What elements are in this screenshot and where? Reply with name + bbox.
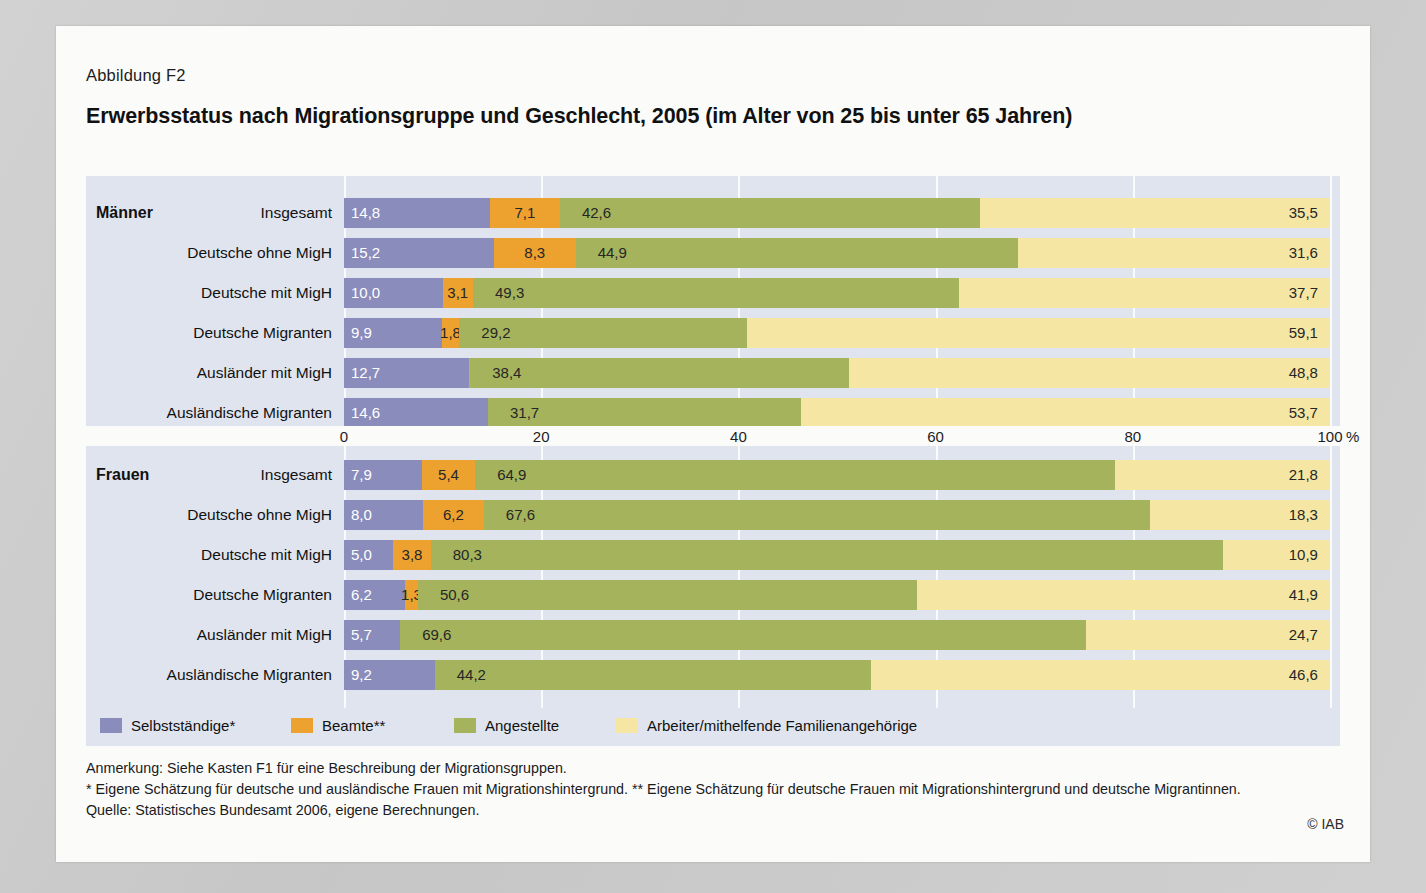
x-axis: 020406080100% bbox=[86, 426, 1340, 446]
stacked-bar: 5,769,624,7 bbox=[344, 620, 1330, 650]
row-category-label: Deutsche mit MigH bbox=[32, 278, 332, 308]
bar-value-label: 46,6 bbox=[1289, 660, 1318, 690]
bar-segment-0: 14,8 bbox=[344, 198, 490, 228]
bar-segment-0: 10,0 bbox=[344, 278, 443, 308]
bar-value-label: 15,2 bbox=[351, 238, 380, 268]
chart-row: Deutsche Migranten9,91,829,259,1 bbox=[86, 318, 1340, 348]
bar-segment-3: 37,7 bbox=[959, 278, 1330, 308]
bar-value-label: 9,9 bbox=[351, 318, 372, 348]
x-axis-tick-80: 80 bbox=[1124, 428, 1141, 445]
bar-value-label: 69,6 bbox=[422, 620, 451, 650]
legend-label: Selbstständige* bbox=[131, 717, 235, 734]
bar-value-label: 44,9 bbox=[598, 238, 627, 268]
bar-value-label: 80,3 bbox=[453, 540, 482, 570]
bar-value-label: 12,7 bbox=[351, 358, 380, 388]
bar-segment-2: 42,6 bbox=[560, 198, 980, 228]
bar-value-label: 29,2 bbox=[481, 318, 510, 348]
legend-item-2[interactable]: Angestellte bbox=[454, 717, 559, 734]
bar-value-label: 37,7 bbox=[1289, 278, 1318, 308]
stacked-bar: 10,03,149,337,7 bbox=[344, 278, 1330, 308]
legend-swatch-icon bbox=[454, 718, 476, 733]
bar-segment-1: 3,1 bbox=[443, 278, 474, 308]
copyright: © IAB bbox=[1307, 816, 1344, 832]
row-category-label: Ausländer mit MigH bbox=[32, 620, 332, 650]
bar-segment-0: 8,0 bbox=[344, 500, 423, 530]
bar-value-label: 64,9 bbox=[497, 460, 526, 490]
chart-row: Ausländer mit MigH5,769,624,7 bbox=[86, 620, 1340, 650]
stacked-bar: 5,03,880,310,9 bbox=[344, 540, 1330, 570]
legend-item-3[interactable]: Arbeiter/mithelfende Familienangehörige bbox=[616, 717, 917, 734]
chart-row: Ausländische Migranten14,631,753,7 bbox=[86, 398, 1340, 428]
stacked-bar: 7,95,464,921,8 bbox=[344, 460, 1330, 490]
bar-value-label: 7,9 bbox=[351, 460, 372, 490]
bar-segment-3: 18,3 bbox=[1150, 500, 1330, 530]
bar-segment-1: 5,4 bbox=[422, 460, 475, 490]
bar-segment-2: 29,2 bbox=[459, 318, 747, 348]
bar-value-label: 44,2 bbox=[457, 660, 486, 690]
bar-value-label: 7,1 bbox=[514, 198, 535, 228]
page-background: Abbildung F2 Erwerbsstatus nach Migratio… bbox=[0, 0, 1426, 893]
bar-value-label: 1,8 bbox=[440, 318, 461, 348]
legend-label: Beamte** bbox=[322, 717, 385, 734]
row-category-label: Deutsche Migranten bbox=[32, 318, 332, 348]
x-axis-tick-60: 60 bbox=[927, 428, 944, 445]
chart-row: Deutsche Migranten6,21,350,641,9 bbox=[86, 580, 1340, 610]
bar-value-label: 31,7 bbox=[510, 398, 539, 428]
bar-segment-0: 5,7 bbox=[344, 620, 400, 650]
chart-row: Insgesamt7,95,464,921,8 bbox=[86, 460, 1340, 490]
legend-label: Angestellte bbox=[485, 717, 559, 734]
bar-segment-0: 6,2 bbox=[344, 580, 405, 610]
bar-value-label: 42,6 bbox=[582, 198, 611, 228]
stacked-bar: 9,244,246,6 bbox=[344, 660, 1330, 690]
bar-segment-2: 49,3 bbox=[473, 278, 959, 308]
bar-value-label: 67,6 bbox=[506, 500, 535, 530]
bar-segment-1: 1,8 bbox=[442, 318, 460, 348]
stacked-bar: 8,06,267,618,3 bbox=[344, 500, 1330, 530]
chart-row: Deutsche mit MigH10,03,149,337,7 bbox=[86, 278, 1340, 308]
bar-segment-3: 41,9 bbox=[917, 580, 1330, 610]
chart-row: Deutsche ohne MigH8,06,267,618,3 bbox=[86, 500, 1340, 530]
chart-row: Deutsche mit MigH5,03,880,310,9 bbox=[86, 540, 1340, 570]
bar-segment-0: 5,0 bbox=[344, 540, 393, 570]
bar-value-label: 14,6 bbox=[351, 398, 380, 428]
bar-segment-0: 14,6 bbox=[344, 398, 488, 428]
bar-segment-2: 69,6 bbox=[400, 620, 1086, 650]
bar-value-label: 59,1 bbox=[1289, 318, 1318, 348]
x-axis-unit: % bbox=[1346, 428, 1359, 445]
bar-segment-0: 9,2 bbox=[344, 660, 435, 690]
bar-value-label: 6,2 bbox=[351, 580, 372, 610]
bar-value-label: 49,3 bbox=[495, 278, 524, 308]
bar-segment-0: 15,2 bbox=[344, 238, 494, 268]
bar-value-label: 41,9 bbox=[1289, 580, 1318, 610]
bar-segment-2: 50,6 bbox=[418, 580, 917, 610]
bar-segment-3: 53,7 bbox=[801, 398, 1330, 428]
bar-value-label: 31,6 bbox=[1289, 238, 1318, 268]
bar-value-label: 50,6 bbox=[440, 580, 469, 610]
stacked-bar: 15,28,344,931,6 bbox=[344, 238, 1330, 268]
bar-segment-2: 44,9 bbox=[576, 238, 1019, 268]
stacked-bar: 14,631,753,7 bbox=[344, 398, 1330, 428]
bar-segment-2: 80,3 bbox=[431, 540, 1223, 570]
bar-value-label: 8,0 bbox=[351, 500, 372, 530]
row-category-label: Deutsche ohne MigH bbox=[32, 238, 332, 268]
bar-segment-2: 64,9 bbox=[475, 460, 1115, 490]
chart-row: Ausländer mit MigH12,738,448,8 bbox=[86, 358, 1340, 388]
note-line-0: Anmerkung: Siehe Kasten F1 für eine Besc… bbox=[86, 758, 1346, 779]
bar-value-label: 3,8 bbox=[402, 540, 423, 570]
legend-item-1[interactable]: Beamte** bbox=[291, 717, 385, 734]
legend-swatch-icon bbox=[100, 718, 122, 733]
stacked-bar: 9,91,829,259,1 bbox=[344, 318, 1330, 348]
bar-segment-0: 12,7 bbox=[344, 358, 469, 388]
bar-value-label: 9,2 bbox=[351, 660, 372, 690]
note-line-1: * Eigene Schätzung für deutsche und ausl… bbox=[86, 779, 1346, 800]
row-category-label: Deutsche ohne MigH bbox=[32, 500, 332, 530]
row-category-label: Ausländische Migranten bbox=[32, 398, 332, 428]
bar-value-label: 3,1 bbox=[447, 278, 468, 308]
bar-value-label: 35,5 bbox=[1289, 198, 1318, 228]
bar-value-label: 6,2 bbox=[443, 500, 464, 530]
row-category-label: Insgesamt bbox=[32, 460, 332, 490]
chart-panel-women: Frauen Insgesamt7,95,464,921,8Deutsche o… bbox=[86, 446, 1340, 708]
row-category-label: Deutsche Migranten bbox=[32, 580, 332, 610]
legend-item-0[interactable]: Selbstständige* bbox=[100, 717, 235, 734]
figure-number: Abbildung F2 bbox=[86, 66, 186, 85]
